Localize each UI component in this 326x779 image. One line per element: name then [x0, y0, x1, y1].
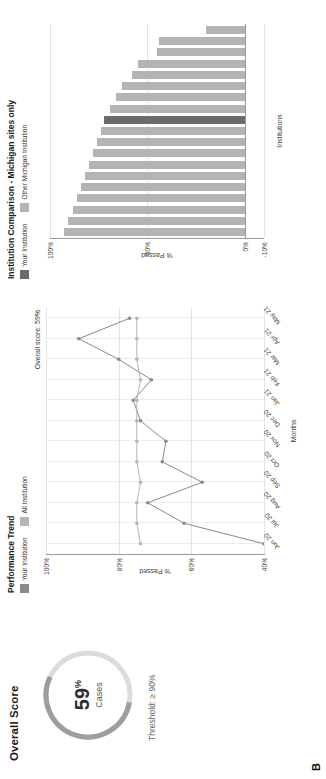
- overall-score-title: Overall Score: [8, 611, 20, 761]
- gauge-sublabel: Cases: [94, 682, 104, 708]
- legend-swatch: [20, 203, 29, 212]
- line-data-point: [135, 316, 139, 320]
- legend-swatch: [20, 270, 29, 279]
- institution-comparison-legend: Your Institution Other Michigan Institut…: [20, 7, 29, 279]
- bar: [101, 127, 245, 135]
- line-data-point: [139, 542, 143, 546]
- y-tick-label: 60%: [188, 558, 195, 571]
- bar: [81, 183, 244, 191]
- line-data-point: [135, 439, 139, 443]
- line-data-point: [146, 501, 150, 505]
- line-data-point: [128, 316, 132, 320]
- performance-trend-legend: Your Institution All Institution: [20, 293, 29, 593]
- line-data-point: [160, 460, 164, 464]
- bar: [138, 60, 245, 68]
- line-data-point: [131, 398, 135, 402]
- legend-item-other-institution: Other Michigan Institution: [20, 125, 29, 212]
- bar-series: [50, 24, 264, 238]
- y-tick-label: 80%: [115, 558, 122, 571]
- gauge-value-unit: %: [73, 680, 83, 688]
- line-data-point: [182, 521, 186, 525]
- line-data-point: [164, 439, 168, 443]
- line-data-point: [139, 480, 143, 484]
- x-tick-label: Oct 20: [262, 450, 280, 469]
- gauge-value: 59%: [72, 680, 92, 710]
- line-data-point: [135, 419, 139, 423]
- performance-trend-panel: Performance Trend Your Institution All I…: [6, 293, 320, 593]
- bar-y-axis-label: % Passed: [141, 252, 173, 259]
- performance-trend-title: Performance Trend: [6, 293, 16, 593]
- institution-comparison-title: Institution Comparison - Michigan sites …: [6, 7, 16, 279]
- line-data-point: [135, 501, 139, 505]
- legend-label: Your Institution: [21, 538, 28, 581]
- y-tick-label: 40%: [261, 558, 268, 571]
- line-data-point: [135, 337, 139, 341]
- y-tick-label: 100%: [47, 242, 54, 259]
- x-tick-label: Apr 21: [262, 327, 280, 346]
- bar: [116, 93, 244, 101]
- y-tick-label: 0%: [241, 242, 248, 252]
- bar: [122, 82, 245, 90]
- institution-comparison-panel: Institution Comparison - Michigan sites …: [6, 7, 320, 279]
- legend-label: Other Michigan Institution: [21, 125, 28, 200]
- dashboard: Overall Score 59% Cases Threshold: ≥ 90%…: [0, 0, 326, 779]
- bar: [110, 105, 244, 113]
- line-data-point: [150, 378, 154, 382]
- bar: [132, 71, 245, 79]
- gauge-center-readout: 59% Cases: [36, 643, 140, 747]
- bar: [104, 116, 244, 124]
- institution-comparison-plot: -10%0%50%100% % Passed Institutions: [50, 24, 264, 239]
- x-tick-label: Jan 21: [262, 388, 280, 407]
- legend-label: Your Institution: [21, 224, 28, 267]
- line-data-point: [135, 460, 139, 464]
- bar: [89, 161, 245, 169]
- bar: [73, 206, 244, 214]
- legend-swatch: [20, 517, 29, 526]
- performance-trend-plot: Overall score: 59% 40%60%80%100% Jun 20J…: [46, 308, 265, 555]
- bar-x-axis-label: Institutions: [276, 114, 283, 147]
- line-data-point: [77, 337, 81, 341]
- bar: [77, 194, 244, 202]
- bar: [159, 37, 245, 45]
- panel-letter: B: [310, 763, 322, 771]
- line-data-point: [135, 357, 139, 361]
- line-data-point: [139, 378, 143, 382]
- line-data-point: [139, 419, 143, 423]
- rotated-dashboard-frame: Overall Score 59% Cases Threshold: ≥ 90%…: [0, 0, 326, 779]
- gauge-value-number: 59: [71, 688, 93, 710]
- bar: [206, 26, 245, 34]
- gridline: [264, 24, 265, 238]
- x-tick-label: Jul 20: [263, 512, 280, 530]
- bar: [64, 228, 245, 236]
- line-data-point: [200, 480, 204, 484]
- overall-score-annotation: Overall score: 59%: [34, 310, 41, 369]
- gauge-threshold-text: Threshold: ≥ 90%: [147, 611, 157, 741]
- legend-label: All Institution: [21, 476, 28, 513]
- line-x-axis-label: Months: [290, 420, 297, 443]
- line-data-point: [262, 542, 264, 546]
- bar: [97, 138, 245, 146]
- y-tick-label: 100%: [43, 558, 50, 575]
- line-data-point: [117, 357, 121, 361]
- bar: [85, 172, 245, 180]
- x-tick-label: Jun 20: [262, 532, 280, 551]
- legend-item-your-institution: Your Institution: [20, 538, 29, 593]
- line-series: [79, 318, 264, 544]
- bar: [157, 49, 245, 57]
- legend-item-your-institution: Your Institution: [20, 224, 29, 279]
- line-y-axis-label: % Passed: [139, 568, 171, 575]
- line-data-point: [135, 521, 139, 525]
- bar: [93, 149, 245, 157]
- legend-swatch: [20, 584, 29, 593]
- bar: [68, 217, 245, 225]
- overall-score-gauge: 59% Cases: [36, 643, 140, 747]
- overall-score-panel: Overall Score 59% Cases Threshold: ≥ 90%: [8, 611, 178, 761]
- line-series-svg: [46, 308, 264, 554]
- y-tick-label: -10%: [261, 242, 268, 257]
- legend-item-all-institution: All Institution: [20, 476, 29, 525]
- line-data-point: [135, 398, 139, 402]
- line-series: [137, 318, 141, 544]
